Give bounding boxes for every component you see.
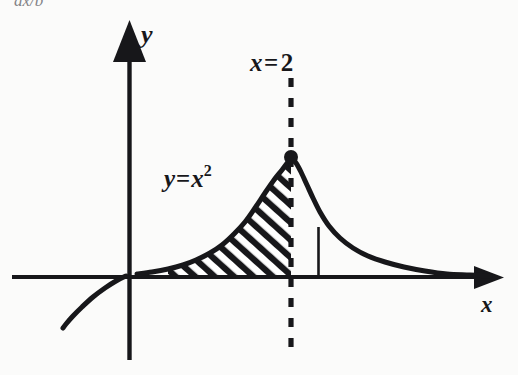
curve-equation-lhs: y [164,165,175,192]
curve-equation-operator: = [175,165,191,192]
curve-equation-base: x [191,165,204,192]
curve-equation-label: y=x2 [164,165,212,191]
curve-equation-exponent: 2 [204,162,212,179]
x-equals-2-label: x=2 [250,50,295,75]
left-branch-curve [63,276,126,328]
y-axis-label: y [141,22,153,48]
x-equals-2-value: 2 [280,49,295,76]
x-equals-2-operator: = [263,49,280,76]
y-axis [113,20,146,360]
peak-point-marker [284,150,298,164]
x-equals-2-variable: x [250,49,263,76]
x-axis-label: x [481,293,493,316]
figure-page: ax/b [0,0,518,375]
